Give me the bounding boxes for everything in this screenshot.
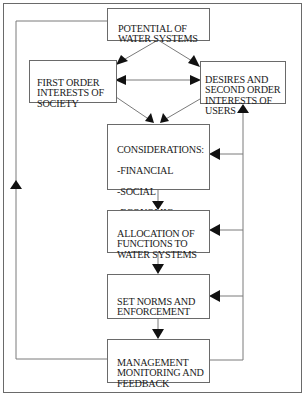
node-label: DESIRES AND SECOND ORDER INTERESTS OF US… [205, 75, 285, 117]
arrowhead-feedback-considerations-icon [209, 148, 220, 160]
node-label: ALLOCATION OF FUNCTIONS TO WATER SYSTEMS [117, 229, 209, 261]
consideration-item: -FINANCIAL [117, 166, 209, 177]
edge-first-order-considerations [116, 97, 150, 120]
node-label: CONSIDERATIONS: [117, 145, 209, 156]
node-set-norms-enforcement: SET NORMS AND ENFORCEMENT [107, 274, 210, 319]
node-potential-of-water-systems: POTENTIAL OF WATER SYSTEMS [107, 8, 210, 41]
node-label: SET NORMS AND ENFORCEMENT [117, 297, 209, 318]
arrowhead-feedback-allocation-icon [209, 224, 220, 236]
node-management-monitoring-feedback: MANAGEMENT MONITORING AND FEEDBACK [107, 339, 210, 383]
arrowhead-desires-icon [188, 55, 200, 67]
node-first-order-interests: FIRST ORDER INTERESTS OF SOCIETY [29, 60, 117, 103]
node-label: MANAGEMENT MONITORING AND FEEDBACK [117, 358, 209, 390]
consideration-item: -SOCIAL [117, 187, 209, 198]
arrowhead-feedback-up-icon [10, 180, 22, 189]
arrowhead-management-icon [152, 329, 164, 339]
node-label: FIRST ORDER INTERESTS OF SOCIETY [37, 78, 116, 110]
edge-desires-considerations [164, 99, 200, 120]
edge-feedback-right [209, 112, 243, 360]
node-label: POTENTIAL OF WATER SYSTEMS [118, 24, 209, 45]
arrowhead-first-order-icon [116, 55, 128, 65]
node-considerations: CONSIDERATIONS: -FINANCIAL -SOCIAL -ECON… [107, 124, 210, 190]
arrowhead-feedback-set-norms-icon [209, 290, 220, 302]
water-systems-flow-diagram: POTENTIAL OF WATER SYSTEMS FIRST ORDER I… [0, 0, 305, 396]
node-allocation-of-functions: ALLOCATION OF FUNCTIONS TO WATER SYSTEMS [107, 210, 210, 253]
node-desires-second-order: DESIRES AND SECOND ORDER INTERESTS OF US… [200, 61, 286, 104]
